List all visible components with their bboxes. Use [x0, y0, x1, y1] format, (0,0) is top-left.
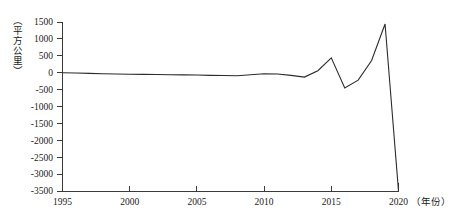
y-tick-label: -1000: [31, 102, 53, 112]
x-tick-label: 2015: [322, 197, 341, 207]
x-axis: 1995 2000 2005 2010 2015 2020 （年份）: [53, 183, 451, 207]
y-tick-label: 1000: [34, 34, 53, 44]
y-axis-ticks: [57, 22, 63, 191]
chart-container: （平方公里） 1500 1000 500 0: [0, 0, 455, 223]
y-tick-label: -1500: [31, 119, 53, 129]
y-tick-label: -3500: [31, 186, 53, 196]
y-tick-label: -500: [36, 85, 54, 95]
y-axis-tick-labels: 1500 1000 500 0 -500 -1000 -1500 -2000 -…: [31, 17, 53, 196]
y-tick-label: 500: [39, 51, 54, 61]
y-tick-label: -2500: [31, 153, 53, 163]
x-tick-label: 2020: [389, 197, 408, 207]
y-axis-unit-label: （平方公里）: [8, 16, 22, 76]
x-tick-label: 2005: [187, 197, 206, 207]
y-tick-label: -2000: [31, 136, 53, 146]
y-tick-label: 1500: [34, 17, 53, 27]
x-tick-label: 1995: [53, 197, 72, 207]
data-series-line: [63, 24, 399, 191]
y-tick-label: -3000: [31, 169, 53, 179]
y-tick-label: 0: [48, 68, 53, 78]
x-axis-tick-labels: 1995 2000 2005 2010 2015 2020: [53, 197, 408, 207]
x-tick-label: 2000: [120, 197, 139, 207]
x-axis-ticks: [63, 186, 399, 192]
x-axis-unit-label: （年份）: [411, 196, 451, 207]
x-tick-label: 2010: [255, 197, 274, 207]
line-chart-svg: 1500 1000 500 0 -500 -1000 -1500 -2000 -…: [0, 0, 455, 223]
y-axis: 1500 1000 500 0 -500 -1000 -1500 -2000 -…: [31, 17, 63, 196]
